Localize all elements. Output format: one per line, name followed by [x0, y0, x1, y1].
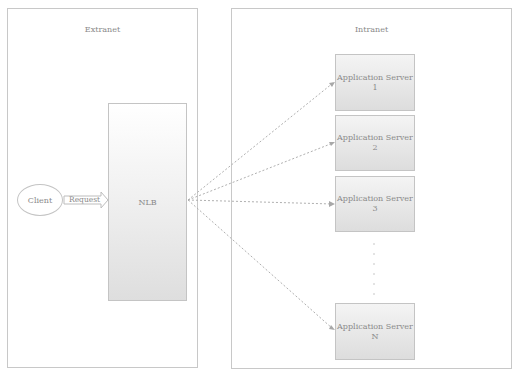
server-index: 1 [372, 83, 377, 93]
server-index: N [372, 332, 379, 342]
server-name: Application Server [337, 73, 413, 83]
server-name: Application Server [337, 194, 413, 204]
server-name: Application Server [337, 322, 413, 332]
request-label: Request [69, 195, 100, 204]
application-server-1: Application Server 1 [335, 54, 415, 111]
application-server-n: Application Server N [335, 303, 415, 360]
connector-layer [0, 0, 523, 376]
application-server-2: Application Server 2 [335, 115, 415, 171]
server-index: 3 [372, 204, 377, 214]
dashed-connectors [188, 83, 333, 329]
application-server-3: Application Server 3 [335, 176, 415, 232]
ellipsis-dots-icon [373, 243, 375, 295]
server-name: Application Server [337, 133, 413, 143]
server-index: 2 [372, 143, 377, 153]
